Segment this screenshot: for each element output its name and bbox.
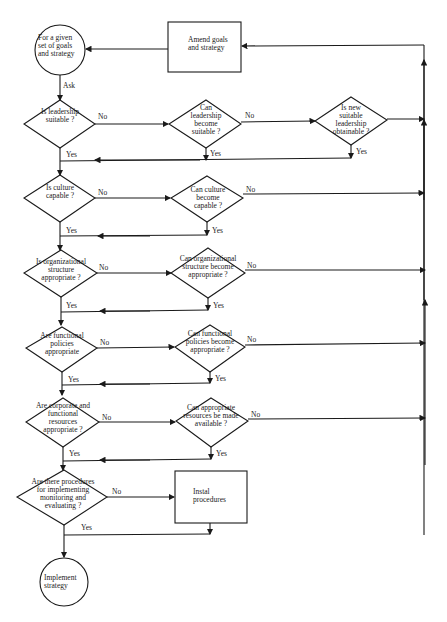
no-label: No xyxy=(98,113,107,121)
decision-policies-become-appropriate: Can functional policies become appropria… xyxy=(182,330,238,354)
decision-leadership-suitable: Is leadership suitable ? xyxy=(40,108,80,124)
yes-label: Yes xyxy=(216,450,227,458)
decision-resources-made-available: Can appropriate resources be made availa… xyxy=(182,404,240,428)
no-label: No xyxy=(102,414,111,422)
yes-label: Yes xyxy=(81,524,92,532)
no-label: No xyxy=(251,411,260,419)
yes-label: Yes xyxy=(356,148,367,156)
decision-leadership-become-suitable: Can leadership become suitable ? xyxy=(186,104,226,136)
decision-structure-become-appropriate: Can organizational structure become appr… xyxy=(178,255,238,279)
decision-resources-appropriate: Are corporate and functional resources a… xyxy=(34,402,92,434)
yes-label: Yes xyxy=(215,375,226,383)
no-label: No xyxy=(245,112,254,120)
yes-label: Yes xyxy=(212,227,223,235)
install-procedures-box: Instal procedures xyxy=(193,488,237,504)
no-label: No xyxy=(99,264,108,272)
end-node: Implement strategy xyxy=(44,574,88,590)
decision-culture-become-capable: Can culture become capable ? xyxy=(185,186,231,210)
amend-goals-box: Amend goals and strategy xyxy=(188,36,230,52)
decision-structure-appropriate: Is organizational structure appropriate … xyxy=(34,258,88,282)
no-label: No xyxy=(246,186,255,194)
decision-new-leadership-obtainable: Is new suitable leadership obtainable ? xyxy=(330,104,372,136)
decision-procedures-exist: Are there procedures for implementing mo… xyxy=(30,478,96,510)
yes-label: Yes xyxy=(213,302,224,310)
no-label: No xyxy=(98,189,107,197)
yes-label: Yes xyxy=(68,376,79,384)
decision-policies-appropriate: Are functional policies appropriate xyxy=(40,332,84,356)
decision-culture-capable: Is culture capable ? xyxy=(38,184,82,200)
ask-label: Ask xyxy=(63,82,75,90)
yes-label: Yes xyxy=(66,227,77,235)
yes-label: Yes xyxy=(210,150,221,158)
flowchart-connectors xyxy=(0,0,447,622)
no-label: No xyxy=(247,262,256,270)
yes-label: Yes xyxy=(66,302,77,310)
start-node: For a given set of goals and strategy xyxy=(38,34,82,58)
yes-label: Yes xyxy=(69,450,80,458)
yes-label: Yes xyxy=(66,151,77,159)
no-label: No xyxy=(112,488,121,496)
no-label: No xyxy=(100,339,109,347)
no-label: No xyxy=(247,336,256,344)
